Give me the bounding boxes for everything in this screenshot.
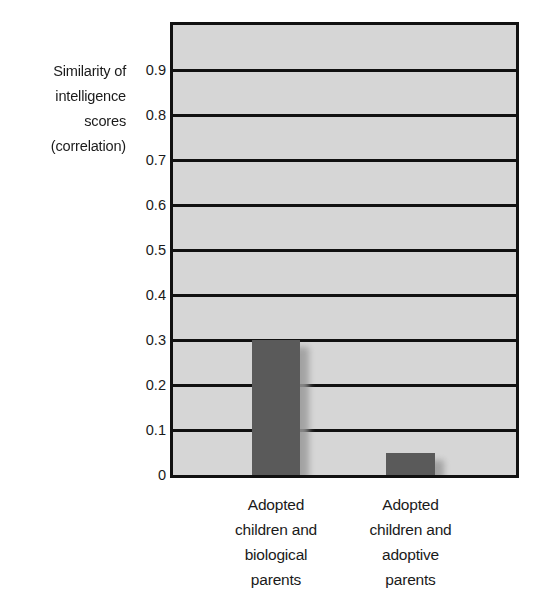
gridline <box>173 429 516 432</box>
plot-area <box>170 22 519 478</box>
gridline <box>173 69 516 72</box>
y-tick-label: 0.5 <box>121 242 166 258</box>
gridline <box>173 204 516 207</box>
bar <box>386 453 435 476</box>
x-category-label-line-2: adoptive <box>331 542 491 567</box>
y-axis-title-line-1: intelligence <box>11 83 126 108</box>
x-category-label-line-3: parents <box>331 567 491 592</box>
y-axis-title-line-3: (correlation) <box>11 133 126 158</box>
gridline <box>173 384 516 387</box>
bar <box>252 340 300 475</box>
y-axis-title: Similarity ofintelligencescores(correlat… <box>11 58 126 158</box>
bar-chart: Similarity ofintelligencescores(correlat… <box>0 0 552 607</box>
gridline <box>173 159 516 162</box>
gridline <box>173 114 516 117</box>
plot-inner <box>173 25 516 475</box>
gridline <box>173 294 516 297</box>
x-category-label-line-1: children and <box>331 517 491 542</box>
y-axis-tick-labels: 00.10.20.30.40.50.60.70.80.9 <box>118 0 166 607</box>
y-tick-label: 0.7 <box>121 152 166 168</box>
y-axis-title-line-0: Similarity of <box>11 58 126 83</box>
y-tick-label: 0.9 <box>121 62 166 78</box>
y-axis-title-line-2: scores <box>11 108 126 133</box>
y-tick-label: 0.3 <box>121 332 166 348</box>
gridline <box>173 339 516 342</box>
y-tick-label: 0.2 <box>121 377 166 393</box>
x-category-label: Adoptedchildren andadoptiveparents <box>331 492 491 592</box>
y-tick-label: 0.4 <box>121 287 166 303</box>
y-tick-label: 0.8 <box>121 107 166 123</box>
y-tick-label: 0 <box>121 467 166 483</box>
x-category-label-line-0: Adopted <box>331 492 491 517</box>
x-axis-category-labels: Adoptedchildren andbiologicalparentsAdop… <box>170 492 519 602</box>
y-tick-label: 0.6 <box>121 197 166 213</box>
y-tick-label: 0.1 <box>121 422 166 438</box>
gridline <box>173 249 516 252</box>
